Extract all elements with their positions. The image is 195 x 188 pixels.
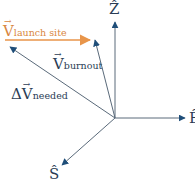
burnout-label: →Vburnout: [53, 56, 102, 72]
delta-prefix-text: Δ: [11, 85, 22, 103]
s-axis-label: Ŝ: [49, 167, 59, 182]
launch-sub-text: launch site: [14, 27, 67, 38]
e-axis-label: Ê: [189, 111, 195, 126]
vector-arrow-icon: →: [4, 17, 12, 26]
vector-arrow-icon: →: [23, 80, 31, 89]
launch-site-label: →Vlaunch site: [3, 23, 67, 39]
s-axis: [62, 118, 115, 165]
delta-sub-text: needed: [33, 90, 68, 101]
z-axis-label: Ẑ: [109, 2, 119, 17]
delta-v-needed-label: Δ→Vneeded: [11, 86, 68, 102]
burnout-sub-text: burnout: [64, 60, 103, 71]
vector-diagram: →Vlaunch site →Vburnout Δ→Vneeded Ẑ Ê Ŝ: [0, 0, 195, 188]
vector-arrow-icon: →: [54, 50, 62, 59]
